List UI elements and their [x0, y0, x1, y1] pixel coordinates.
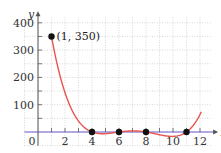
x-tick-label: 10 — [166, 135, 180, 148]
x-tick-label: 6 — [116, 135, 123, 148]
data-point — [183, 129, 189, 135]
x-tick-label: 2 — [62, 135, 69, 148]
y-tick-label: 300 — [13, 44, 34, 57]
polynomial-curve — [52, 36, 202, 136]
y-axis-arrow-icon — [36, 11, 41, 16]
data-point — [48, 33, 54, 39]
axes — [25, 11, 219, 145]
y-tick-label: 200 — [13, 71, 34, 84]
polynomial-chart: 024681012100200300400xy(1, 350) — [0, 0, 221, 153]
x-tick-label: 4 — [89, 135, 96, 148]
x-axis-label: x — [220, 126, 221, 139]
x-tick-label: 12 — [193, 135, 207, 148]
point-annotation: (1, 350) — [57, 30, 101, 43]
y-axis-label: y — [27, 8, 35, 21]
x-tick-label: 8 — [143, 135, 150, 148]
y-tick-label: 100 — [13, 99, 34, 112]
x-tick-label: 0 — [29, 135, 36, 148]
x-axis-arrow-icon — [213, 130, 218, 135]
tick-labels: 024681012100200300400xy(1, 350) — [13, 8, 221, 148]
